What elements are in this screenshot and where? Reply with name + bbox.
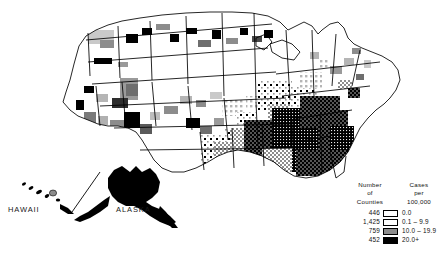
legend-swatch-icon [383, 219, 398, 227]
legend-value-range: 0.1 – 9.9 [398, 218, 429, 227]
legend-header-counties: Number of Counties [350, 181, 390, 206]
legend-row: 452 20.0+ [350, 236, 442, 245]
alaska-inset [74, 166, 178, 228]
legend-row: 446 0.0 [350, 209, 442, 218]
legend-header-cases-line3: 100,000 [396, 198, 442, 206]
legend-header-counties-line1: Number [350, 181, 390, 189]
map-legend: Number of Counties Cases per 100,000 446… [350, 181, 442, 245]
legend-rows: 446 0.0 1,425 0.1 – 9.9 759 10.0 – 19.9 … [350, 209, 442, 245]
legend-county-count: 759 [350, 227, 383, 236]
legend-header-cases-line2: per [396, 189, 442, 197]
inset-divider-line [72, 172, 100, 212]
legend-value-range: 10.0 – 19.9 [398, 227, 436, 236]
legend-county-count: 452 [350, 236, 383, 245]
map-label-hawaii: HAWAII [8, 205, 40, 214]
legend-value-range: 0.0 [398, 209, 411, 218]
legend-county-count: 446 [350, 209, 383, 218]
legend-header-cases-line1: Cases [396, 181, 442, 189]
legend-header-cases: Cases per 100,000 [396, 181, 442, 206]
legend-swatch-icon [383, 210, 398, 218]
legend-header: Number of Counties Cases per 100,000 [350, 181, 442, 206]
legend-header-counties-line2: of [350, 189, 390, 197]
figure-container: HAWAII ALASKA Number of Counties Cases p… [0, 0, 444, 256]
legend-swatch-icon [383, 237, 398, 245]
legend-swatch-icon [383, 228, 398, 236]
legend-row: 1,425 0.1 – 9.9 [350, 218, 442, 227]
legend-header-counties-line3: Counties [350, 198, 390, 206]
legend-row: 759 10.0 – 19.9 [350, 227, 442, 236]
legend-value-range: 20.0+ [398, 236, 419, 245]
legend-county-count: 1,425 [350, 218, 383, 227]
map-label-alaska: ALASKA [116, 205, 151, 214]
